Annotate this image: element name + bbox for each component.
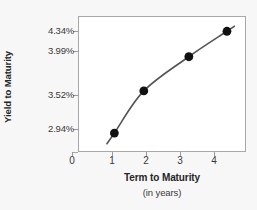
x-tick-label-4: 4 xyxy=(204,155,224,166)
x-tick-label-3: 3 xyxy=(170,155,190,166)
x-axis-subtitle: (in years) xyxy=(78,187,246,198)
y-tick-label-2: 3.52% xyxy=(28,89,74,100)
x-tick-label-0: 0 xyxy=(62,155,82,166)
y-tick-label-1: 2.94% xyxy=(28,123,74,134)
x-tick-label-1: 1 xyxy=(102,155,122,166)
x-axis-title: Term to Maturity xyxy=(78,172,246,183)
yield-curve-chart: Yield to Maturity 4.34% 3.99% 3.52% 2.94… xyxy=(0,0,257,210)
x-tick-label-2: 2 xyxy=(136,155,156,166)
y-axis-title: Yield to Maturity xyxy=(2,32,16,142)
plot-area xyxy=(78,16,246,152)
y-tick-label-4: 4.34% xyxy=(28,25,74,36)
y-tick-label-3: 3.99% xyxy=(28,45,74,56)
